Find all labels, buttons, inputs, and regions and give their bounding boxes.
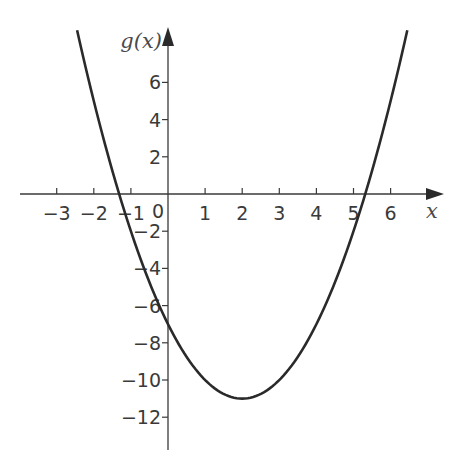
x-tick-label: −3 [43, 202, 71, 224]
x-tick-label: 1 [199, 202, 211, 224]
x-tick-label: 6 [385, 202, 397, 224]
y-axis-label: g(x) [120, 29, 162, 53]
x-tick-label: 3 [273, 202, 285, 224]
ticks [57, 82, 391, 417]
y-tick-label: 4 [149, 109, 161, 131]
y-axis-arrow-icon [162, 27, 174, 46]
y-tick-label: 6 [149, 71, 161, 93]
y-tick-label: −2 [133, 220, 161, 242]
x-axis-label: x [426, 199, 438, 223]
axes [20, 27, 444, 450]
y-tick-label: −12 [121, 406, 161, 428]
function-graph: −3−2−1123456642−2−4−6−8−10−12 0 x g(x) [0, 0, 451, 452]
x-tick-label: 4 [310, 202, 322, 224]
y-tick-label: −8 [133, 332, 161, 354]
x-tick-label: −2 [80, 202, 108, 224]
y-tick-label: −10 [121, 369, 161, 391]
y-tick-label: 2 [149, 146, 161, 168]
tick-labels: −3−2−1123456642−2−4−6−8−10−12 [43, 71, 397, 428]
origin-label: 0 [152, 200, 164, 222]
x-tick-label: 2 [236, 202, 248, 224]
